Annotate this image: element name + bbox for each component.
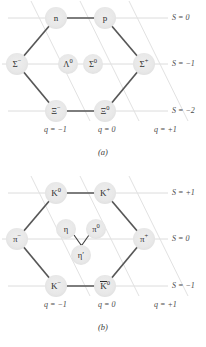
figure-container: n p Σ− Λ0 Σ0 Σ+ Ξ− Ξ0 S = 0 S = −1 S = −… [0, 0, 206, 347]
particle-label-sigma-plus: Σ+ [140, 60, 149, 69]
particle-node-pi-0[interactable]: π0 [86, 219, 106, 239]
particle-node-pi-minus[interactable]: π− [6, 228, 28, 250]
particle-label-n: n [54, 14, 59, 23]
charge-label-plus-1: q = +1 [154, 300, 177, 309]
particle-node-sigma-minus[interactable]: Σ− [6, 53, 28, 75]
particle-label-lambda-0: Λ0 [63, 60, 72, 69]
strangeness-label-minus-1: S = −1 [172, 59, 195, 68]
charge-label-minus-1: q = −1 [44, 300, 67, 309]
charge-label-plus-1: q = +1 [154, 125, 177, 134]
charge-label-minus-1: q = −1 [44, 125, 67, 134]
particle-node-k-plus[interactable]: K+ [94, 182, 116, 204]
particle-label-k-0-bar: K0 [100, 281, 110, 291]
strangeness-label-minus-2: S = −2 [172, 106, 195, 115]
particle-node-n[interactable]: n [45, 7, 67, 29]
strangeness-label-plus-1: S = +1 [172, 188, 195, 197]
particle-label-p: p [103, 14, 108, 23]
panel-caption-b: (b) [0, 322, 206, 332]
charge-label-0: q = 0 [98, 300, 115, 309]
particle-node-k-0[interactable]: K0 [45, 182, 67, 204]
particle-label-eta: η [64, 225, 68, 234]
connector-eta-center [74, 235, 81, 245]
particle-label-k-0: K0 [51, 189, 61, 198]
particle-label-k-minus: K− [51, 282, 61, 291]
particle-label-sigma-0: Σ0 [89, 60, 97, 69]
panel-caption-a: (a) [0, 147, 206, 157]
strangeness-label-minus-1: S = −1 [172, 281, 195, 290]
particle-node-eta[interactable]: η [56, 219, 76, 239]
particle-node-k-0-bar[interactable]: K0 [94, 275, 116, 297]
particle-label-sigma-minus: Σ− [13, 60, 22, 69]
particle-label-xi-minus: Ξ− [51, 107, 60, 116]
strangeness-label-0: S = 0 [172, 13, 189, 22]
particle-node-k-minus[interactable]: K− [45, 275, 67, 297]
baryon-octet-diagram: n p Σ− Λ0 Σ0 Σ+ Ξ− Ξ0 S = 0 S = −1 S = −… [0, 0, 206, 172]
particle-label-pi-minus: π− [13, 235, 21, 244]
particle-node-sigma-0[interactable]: Σ0 [83, 54, 103, 74]
particle-label-pi-plus: π+ [140, 235, 148, 244]
particle-label-k-plus: K+ [100, 189, 110, 198]
particle-node-xi-0[interactable]: Ξ0 [94, 100, 116, 122]
particle-node-eta-prime[interactable]: η′ [71, 245, 91, 265]
particle-node-xi-minus[interactable]: Ξ− [45, 100, 67, 122]
particle-label-pi-0: π0 [92, 225, 100, 234]
particle-node-pi-plus[interactable]: π+ [133, 228, 155, 250]
strangeness-label-0: S = 0 [172, 234, 189, 243]
connector-pi0-center [82, 235, 89, 245]
particle-node-lambda-0[interactable]: Λ0 [58, 54, 78, 74]
particle-node-p[interactable]: p [94, 7, 116, 29]
charge-label-0: q = 0 [98, 125, 115, 134]
particle-label-eta-prime: η′ [78, 251, 84, 260]
meson-nonet-diagram: K0 K+ π− η π0 η′ π+ K− K0 S = +1 S = 0 S… [0, 175, 206, 347]
particle-label-xi-0: Ξ0 [100, 107, 109, 116]
particle-node-sigma-plus[interactable]: Σ+ [133, 53, 155, 75]
